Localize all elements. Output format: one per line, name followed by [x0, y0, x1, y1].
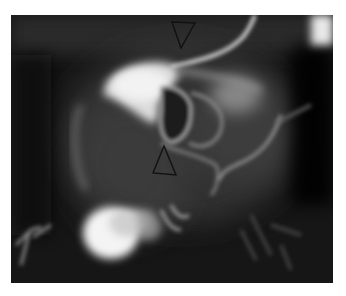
radiograph-image: [11, 15, 333, 283]
radiograph-figure: Grayscale contrast X-ray (angiographic/f…: [11, 15, 333, 283]
